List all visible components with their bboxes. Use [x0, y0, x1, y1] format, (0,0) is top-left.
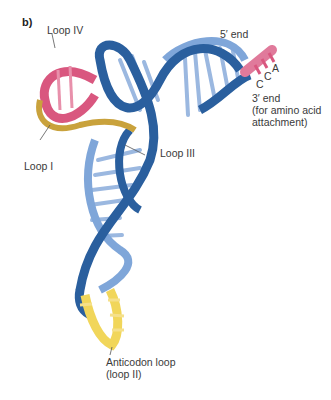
label-anticodon-loop: Anticodon loop: [106, 356, 175, 368]
label-loop-iii: Loop III: [160, 147, 195, 159]
label-base-c2: C: [256, 78, 264, 90]
label-five-prime-end: 5′ end: [220, 28, 248, 40]
label-three-prime-note-2: attachment): [252, 116, 307, 128]
label-base-a: A: [272, 62, 279, 74]
anticodon-loop-strand: [85, 290, 118, 345]
backbone-dark: [79, 45, 240, 315]
label-loop-iv: Loop IV: [47, 24, 83, 36]
label-base-c1: C: [264, 70, 272, 82]
label-loop-ii: (loop II): [106, 368, 142, 380]
label-three-prime-note-1: (for amino acid: [252, 104, 321, 116]
label-loop-i: Loop I: [24, 160, 53, 172]
label-three-prime-end: 3′ end: [252, 92, 280, 104]
trna-structure-illustration: [0, 0, 331, 400]
